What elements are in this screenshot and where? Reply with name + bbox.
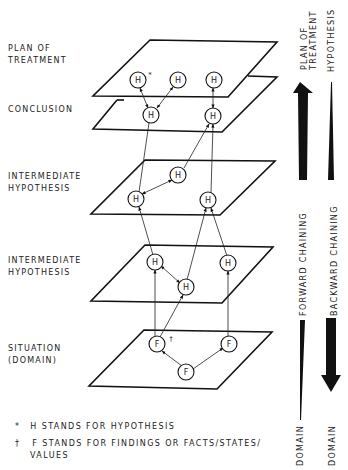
backward-chaining-label: BACKWARD CHAINING (330, 205, 339, 316)
node-label: H (225, 259, 231, 268)
node-label: H (210, 112, 216, 121)
node-label: H (133, 195, 139, 204)
forward-bottom-label: DOMAIN (296, 425, 305, 466)
backward-top-label: HYPOTHESIS (327, 9, 336, 73)
chaining-diagram: H H H H H H H H H H H F F F * † PLAN OF … (0, 0, 348, 470)
dagger-mark: † (169, 335, 173, 343)
node-label: H (148, 111, 154, 120)
edge (162, 351, 182, 366)
node-label: F (184, 368, 189, 377)
footnote-mark: † (15, 439, 20, 448)
node-label: H (135, 76, 141, 85)
node-label: H (152, 258, 158, 267)
node-label: F (155, 340, 160, 349)
forward-chaining-label: FORWARD CHAINING (299, 212, 308, 316)
footnote-text: F STANDS FOR FINDINGS OR FACTS/STATES/ (32, 439, 261, 448)
plane-situation (89, 330, 272, 389)
node-label: F (227, 340, 232, 349)
forward-top-label: PLAN OF (300, 27, 309, 70)
forward-top-label: TREATMENT (309, 10, 318, 71)
edge (139, 123, 149, 192)
edge (211, 124, 213, 193)
edge (161, 266, 180, 283)
footnote-text: H STANDS FOR HYPOTHESIS (30, 422, 175, 431)
edge (187, 208, 206, 280)
edge (142, 180, 172, 194)
edge (193, 348, 223, 369)
node-label: H (175, 171, 181, 180)
footnote-continuation: VALUES (30, 450, 261, 462)
footnote-hypothesis: * H STANDS FOR HYPOTHESIS (15, 421, 175, 433)
footnote-finding: † F STANDS FOR FINDINGS OR FACTS/STATES/… (15, 438, 261, 462)
node-label: H (205, 196, 211, 205)
plane-plan-of-treatment (93, 40, 277, 97)
footnote-mark: * (15, 422, 20, 431)
node-label: H (183, 283, 189, 292)
node-label: H (211, 76, 217, 85)
asterisk-mark: * (148, 71, 152, 79)
backward-bottom-label: DOMAIN (328, 425, 337, 466)
node-label: H (175, 76, 181, 85)
